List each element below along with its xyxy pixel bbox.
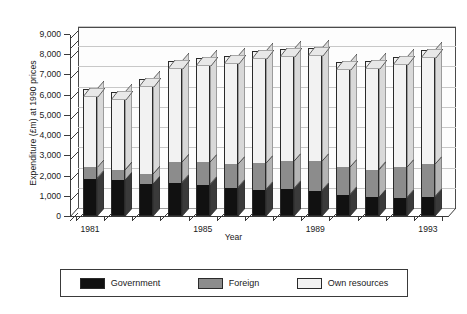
legend-label: Own resources bbox=[328, 278, 389, 288]
y-axis-tick-depth bbox=[70, 188, 79, 197]
x-axis-tick-depth bbox=[104, 208, 113, 217]
bar-segment-own bbox=[83, 89, 97, 168]
bar-segment-side-own bbox=[182, 53, 188, 162]
bar-top-cap bbox=[139, 73, 159, 79]
legend-item-for: Foreign bbox=[198, 278, 260, 289]
bar-segment-own bbox=[308, 48, 322, 161]
bar-top-cap bbox=[111, 86, 131, 92]
bar-segment-for bbox=[252, 163, 266, 189]
x-axis-tick-depth bbox=[386, 208, 395, 217]
bar-segment-gov bbox=[421, 197, 435, 216]
bar-segment-side-own bbox=[266, 43, 272, 163]
bar-segment-gov bbox=[111, 180, 125, 216]
y-axis-tick-depth bbox=[70, 46, 79, 55]
y-axis-tick-label: 8,000 bbox=[39, 49, 61, 59]
bar-top-cap bbox=[393, 51, 413, 57]
bar-segment-for bbox=[365, 170, 379, 197]
x-axis-tick bbox=[442, 216, 443, 221]
bar-segment-side-own bbox=[238, 48, 244, 164]
legend-swatch-gov bbox=[80, 278, 105, 289]
x-axis-tick-depth bbox=[189, 208, 198, 217]
bar-segment-for bbox=[168, 162, 182, 182]
y-axis-tick-label: 4,000 bbox=[39, 130, 61, 140]
bar-segment-gov bbox=[308, 191, 322, 216]
y-axis-tick-label: 1,000 bbox=[39, 191, 61, 201]
bar-top-cap bbox=[336, 56, 356, 62]
y-axis-tick-label: 5,000 bbox=[39, 110, 61, 120]
bar-segment-side-own bbox=[435, 42, 441, 164]
bar-segment-gov bbox=[336, 195, 350, 216]
y-axis-tick-label: 7,000 bbox=[39, 69, 61, 79]
legend-swatch-own bbox=[297, 278, 322, 289]
bar-segment-for bbox=[421, 164, 435, 196]
bar-segment-side-own bbox=[294, 41, 300, 161]
bar-segment-gov bbox=[83, 179, 97, 216]
bar-segment-for bbox=[336, 167, 350, 194]
y-axis-tick-depth bbox=[70, 87, 79, 96]
bar-top-cap bbox=[83, 83, 103, 89]
bar-top-cap bbox=[224, 50, 244, 56]
y-axis-title: Expenditure (£m) at 1990 prices bbox=[28, 28, 38, 218]
x-axis-tick-depth bbox=[160, 208, 169, 217]
x-axis-tick-depth bbox=[414, 208, 423, 217]
bar-segment-own bbox=[336, 62, 350, 167]
bar-segment-gov bbox=[280, 189, 294, 216]
bar-segment-side-own bbox=[407, 49, 413, 167]
bar-segment-for bbox=[224, 164, 238, 187]
bar-top-cap bbox=[280, 43, 300, 49]
x-axis-tick-depth bbox=[329, 208, 338, 217]
gridline bbox=[78, 26, 456, 27]
x-axis-tick-depth bbox=[132, 208, 141, 217]
chart-figure: Expenditure (£m) at 1990 prices 01,0002,… bbox=[0, 0, 467, 314]
bar-top-cap bbox=[308, 42, 328, 48]
x-axis-tick-depth bbox=[217, 208, 226, 217]
bar-segment-gov bbox=[252, 190, 266, 216]
bar-segment-for bbox=[280, 161, 294, 188]
legend-swatch-for bbox=[198, 278, 223, 289]
x-axis-title: Year bbox=[0, 232, 467, 242]
bar-top-cap bbox=[365, 55, 385, 61]
bar-segment-gov bbox=[168, 183, 182, 216]
bar-segment-for bbox=[139, 174, 153, 184]
bar-top-cap bbox=[168, 55, 188, 61]
x-axis-tick-depth bbox=[76, 208, 85, 217]
bar-segment-gov bbox=[139, 184, 153, 216]
y-axis-tick-label: 2,000 bbox=[39, 171, 61, 181]
bar-segment-own bbox=[252, 51, 266, 163]
bar-segment-own bbox=[365, 61, 379, 169]
y-axis-tick-depth bbox=[70, 66, 79, 75]
legend-item-gov: Government bbox=[80, 278, 161, 289]
bar-segment-side-own bbox=[379, 53, 385, 169]
bar-top-cap bbox=[421, 44, 441, 50]
y-axis-tick-depth bbox=[70, 147, 79, 156]
legend-item-own: Own resources bbox=[297, 278, 389, 289]
y-axis-tick-depth bbox=[70, 127, 79, 136]
bar-segment-gov bbox=[224, 188, 238, 216]
bar-segment-own bbox=[196, 58, 210, 162]
x-axis-tick-depth bbox=[273, 208, 282, 217]
bar-segment-own bbox=[224, 56, 238, 164]
y-axis-tick-label: 9,000 bbox=[39, 29, 61, 39]
bar-segment-side-own bbox=[322, 40, 328, 161]
bar-segment-side-own bbox=[210, 50, 216, 162]
bar-top-cap bbox=[252, 45, 272, 51]
y-axis-tick-depth bbox=[70, 168, 79, 177]
bar-segment-gov bbox=[365, 197, 379, 216]
y-axis-tick-depth bbox=[70, 107, 79, 116]
bar-segment-for bbox=[83, 167, 97, 178]
bar-segment-for bbox=[111, 170, 125, 180]
bar-segment-own bbox=[139, 79, 153, 174]
bar-segment-own bbox=[168, 61, 182, 162]
x-axis-tick-depth bbox=[358, 208, 367, 217]
bar-segment-gov bbox=[196, 185, 210, 216]
y-axis-tick-depth bbox=[70, 26, 79, 35]
x-axis-tick-depth bbox=[245, 208, 254, 217]
y-axis-tick-label: 0 bbox=[56, 211, 61, 221]
bar-top-cap bbox=[196, 52, 216, 58]
bar-segment-for bbox=[196, 162, 210, 184]
chart-legend: GovernmentForeignOwn resources bbox=[60, 269, 408, 297]
bar-segment-own bbox=[280, 49, 294, 161]
x-axis-tick-depth bbox=[301, 208, 310, 217]
bar-segment-gov bbox=[393, 198, 407, 216]
legend-label: Foreign bbox=[229, 278, 260, 288]
